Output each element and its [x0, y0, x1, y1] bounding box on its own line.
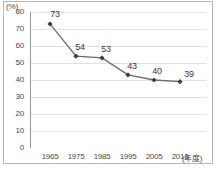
- y-axis-tick-label: 20: [6, 109, 24, 118]
- source-caption: [128, 166, 220, 175]
- y-axis-tick-label: 0: [6, 143, 24, 152]
- data-point-value-label: 54: [70, 42, 90, 52]
- data-point-marker: [177, 79, 182, 84]
- data-point-value-label: 39: [179, 69, 199, 79]
- y-axis-tick-label: 30: [6, 92, 24, 101]
- plot-area: [30, 12, 206, 148]
- line-chart-svg: [30, 12, 206, 148]
- chart-figure: (%) 01020304050607080 196519751985199520…: [0, 0, 221, 177]
- data-point-value-label: 53: [96, 44, 116, 54]
- x-axis-tick-label: 1985: [89, 152, 115, 161]
- x-axis-tick-label: 2005: [141, 152, 167, 161]
- x-axis-unit-label: (年度): [182, 152, 202, 163]
- data-point-value-label: 43: [122, 61, 142, 71]
- y-axis-tick-label: 50: [6, 58, 24, 67]
- x-axis-tick-label: 1975: [63, 152, 89, 161]
- y-axis-tick-label: 70: [6, 24, 24, 33]
- y-axis-tick-label: 10: [6, 126, 24, 135]
- x-axis-tick-label: 1965: [37, 152, 63, 161]
- data-point-marker: [151, 77, 156, 82]
- y-axis-tick-label: 60: [6, 41, 24, 50]
- data-point-value-label: 40: [147, 66, 167, 76]
- x-axis-tick-label: 1995: [115, 152, 141, 161]
- y-axis-tick-label: 40: [6, 75, 24, 84]
- data-point-value-label: 73: [45, 9, 65, 19]
- y-axis-tick-label: 80: [6, 7, 24, 16]
